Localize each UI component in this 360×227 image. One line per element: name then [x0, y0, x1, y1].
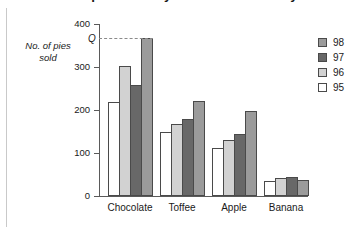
legend-label-97: 97: [333, 53, 344, 63]
bar-toffee-98: [193, 101, 205, 196]
bar-chart: No. of pies sold 0100200300400 Chocolate…: [0, 0, 360, 227]
bar-chocolate-98: [141, 38, 153, 196]
y-axis-line: [99, 24, 100, 197]
y-axis-tick-mark: [94, 67, 99, 68]
legend-item-96[interactable]: 96: [318, 66, 344, 79]
y-axis-tick-label: 0: [60, 191, 90, 201]
y-axis-tick-label: 200: [60, 105, 90, 115]
legend-swatch-98: [318, 38, 327, 47]
legend-swatch-97: [318, 53, 327, 62]
legend-item-95[interactable]: 95: [318, 81, 344, 94]
legend-swatch-96: [318, 68, 327, 77]
legend-label-98: 98: [333, 38, 344, 48]
y-axis-tick-mark: [94, 24, 99, 25]
y-axis-tick-label: 100: [60, 148, 90, 158]
y-axis-tick-mark: [94, 153, 99, 154]
legend-label-96: 96: [333, 68, 344, 78]
y-axis-tick-label: 400: [60, 19, 90, 29]
legend-label-95: 95: [333, 83, 344, 93]
q-annotation-label: Q: [88, 34, 96, 44]
y-axis-tick-label: 300: [60, 62, 90, 72]
x-axis-line: [99, 196, 308, 197]
y-axis-tick-mark: [94, 110, 99, 111]
legend-swatch-95: [318, 83, 327, 92]
y-axis-tick-mark: [94, 196, 99, 197]
legend: 98979695: [318, 36, 344, 96]
y-axis-caption-line-1: No. of pies: [12, 40, 84, 52]
legend-item-98[interactable]: 98: [318, 36, 344, 49]
legend-item-97[interactable]: 97: [318, 51, 344, 64]
q-annotation-dashed-line: [99, 38, 153, 39]
x-axis-label-banana: Banana: [242, 203, 330, 213]
bar-apple-98: [245, 111, 257, 196]
bar-banana-98: [297, 180, 309, 196]
